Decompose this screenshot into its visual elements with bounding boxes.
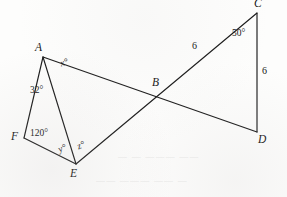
side-length-EC: 6 xyxy=(192,41,197,51)
vertex-label-E: E xyxy=(70,168,77,180)
bleed-through-text-2: —— ——— —— — xyxy=(96,176,188,187)
angle-50: 50° xyxy=(232,29,245,39)
side-length-CD: 6 xyxy=(262,66,267,76)
angle-120: 120° xyxy=(30,129,48,139)
geometry-figure: ABCDEFx°32°120°y°z°50°66— — ——— ———— ———… xyxy=(0,0,287,197)
vertex-label-C: C xyxy=(254,0,262,10)
segment-A-F xyxy=(24,57,43,138)
vertex-label-F: F xyxy=(11,131,18,143)
segment-A-D xyxy=(43,57,257,132)
segment-E-C xyxy=(76,13,257,164)
segments-group xyxy=(24,13,257,164)
angle-32: 32° xyxy=(30,86,43,96)
vertex-label-A: A xyxy=(35,42,42,54)
bleed-through-text-1: — — ——— —— xyxy=(118,152,200,163)
vertex-label-D: D xyxy=(258,134,266,146)
segment-F-E xyxy=(24,138,76,164)
vertex-label-B: B xyxy=(152,77,159,89)
